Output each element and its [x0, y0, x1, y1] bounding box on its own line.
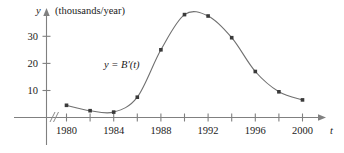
y-axis-unit-label: (thousands/year) — [55, 5, 125, 17]
x-tick-label-1984: 1984 — [103, 125, 125, 136]
data-point — [254, 70, 258, 74]
x-tick-label-2000: 2000 — [292, 125, 313, 136]
data-point — [301, 98, 305, 102]
x-axis-arrow-icon — [318, 114, 326, 120]
data-point — [230, 36, 234, 40]
data-point — [65, 104, 69, 108]
chart-figure: 30 20 10 1980 1984 1988 1992 1996 2000 y… — [0, 0, 344, 153]
x-tick-label-1992: 1992 — [198, 125, 219, 136]
data-point — [112, 110, 116, 114]
y-tick-label-20: 20 — [28, 58, 39, 69]
x-tick-label-1996: 1996 — [245, 125, 266, 136]
y-tick-label-10: 10 — [28, 85, 39, 96]
data-point — [159, 48, 163, 52]
data-point — [206, 14, 210, 18]
y-tick-label-30: 30 — [28, 31, 39, 42]
x-axis-label: t — [330, 125, 334, 136]
x-tick-label-1988: 1988 — [150, 125, 171, 136]
y-axis-label: y — [35, 5, 41, 16]
y-axis — [43, 8, 49, 145]
curve-equation-label: y = B′(t) — [103, 59, 140, 71]
data-point-markers — [65, 13, 305, 114]
data-point — [88, 109, 92, 113]
data-point — [277, 90, 281, 94]
chart-svg: 30 20 10 1980 1984 1988 1992 1996 2000 y… — [0, 0, 344, 153]
data-point — [183, 13, 187, 17]
y-axis-arrow-icon — [43, 8, 49, 16]
data-curve — [67, 12, 303, 113]
x-tick-label-1980: 1980 — [56, 125, 77, 136]
data-point — [136, 95, 140, 99]
